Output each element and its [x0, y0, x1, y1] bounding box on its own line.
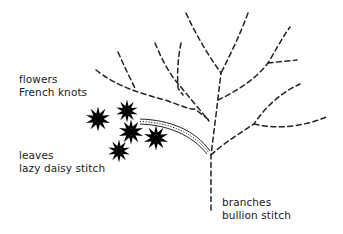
trunk: [211, 73, 221, 210]
branches-label: branches bullion stitch: [222, 196, 291, 221]
leaves-label: leaves lazy daisy stitch: [19, 149, 105, 174]
flowers-label-line1: flowers: [19, 73, 87, 86]
flowers-label: flowers French knots: [19, 73, 87, 98]
tree-diagram: [0, 0, 343, 234]
branch-left: [96, 43, 209, 121]
branches-label-line2: bullion stitch: [222, 209, 291, 222]
branch-top-v: [186, 13, 248, 73]
branch-right-upper: [218, 27, 297, 100]
flowers-label-line2: French knots: [19, 86, 87, 99]
leaves-label-line2: lazy daisy stitch: [19, 162, 105, 175]
leaves-label-line1: leaves: [19, 149, 105, 162]
branches-label-line1: branches: [222, 196, 291, 209]
